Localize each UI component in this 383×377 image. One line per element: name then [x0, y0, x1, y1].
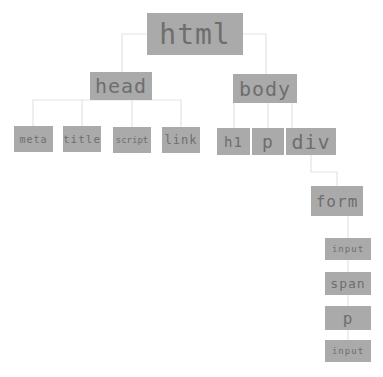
- node-html: html: [147, 13, 243, 55]
- node-title: title: [63, 126, 101, 152]
- node-p: p: [252, 128, 284, 155]
- node-script: script: [113, 127, 151, 153]
- node-span: span: [325, 272, 371, 295]
- node-form: form: [311, 186, 363, 216]
- node-p-inner: p: [325, 306, 371, 330]
- node-div: div: [286, 128, 336, 155]
- node-meta: meta: [14, 126, 53, 152]
- node-h1: h1: [217, 128, 250, 155]
- node-head: head: [90, 72, 152, 100]
- node-link: link: [162, 127, 200, 153]
- node-body: body: [233, 74, 297, 103]
- node-input-2: input: [325, 340, 371, 362]
- node-input: input: [325, 238, 371, 260]
